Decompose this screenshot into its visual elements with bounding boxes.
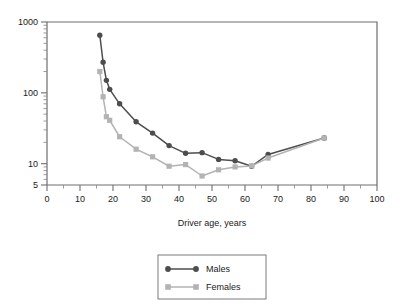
x-axis-tick-label: 20: [108, 194, 118, 204]
x-axis-tick-label: 30: [141, 194, 151, 204]
data-point: [133, 119, 138, 124]
data-point: [249, 163, 254, 168]
data-point: [150, 130, 155, 135]
series-females: [97, 69, 327, 179]
data-point: [216, 167, 221, 172]
x-axis-tick-label: 70: [273, 194, 283, 204]
line-chart: 51010010000102030405060708090100Driver a…: [0, 0, 400, 307]
y-axis-tick-label: 1000: [18, 17, 38, 27]
data-point: [107, 87, 112, 92]
data-point: [97, 33, 102, 38]
data-point: [232, 158, 237, 163]
legend-marker: [165, 266, 171, 272]
x-axis-tick-label: 50: [207, 194, 217, 204]
data-point: [200, 173, 205, 178]
data-point: [97, 69, 102, 74]
data-point: [117, 101, 122, 106]
y-axis-tick-label: 10: [28, 159, 38, 169]
data-point: [107, 118, 112, 123]
data-point: [322, 135, 327, 140]
x-axis-tick-label: 40: [174, 194, 184, 204]
data-point: [216, 157, 221, 162]
data-point: [167, 164, 172, 169]
x-axis-tick-label: 100: [369, 194, 384, 204]
chart-container: 51010010000102030405060708090100Driver a…: [0, 0, 400, 307]
x-axis-title: Driver age, years: [178, 218, 247, 228]
data-point: [166, 143, 171, 148]
series-males: [97, 33, 327, 169]
x-axis-tick-label: 80: [306, 194, 316, 204]
x-axis-tick-label: 90: [339, 194, 349, 204]
data-point: [233, 164, 238, 169]
plot-frame: [47, 22, 377, 185]
legend-label: Females: [206, 282, 241, 292]
legend-label: Males: [206, 264, 231, 274]
data-point: [101, 94, 106, 99]
legend-marker: [193, 266, 199, 272]
data-point: [104, 78, 109, 83]
y-axis-tick-label: 5: [33, 180, 38, 190]
legend-marker: [193, 284, 199, 290]
series-line: [100, 72, 324, 176]
y-axis-tick-label: 100: [23, 88, 38, 98]
data-point: [117, 134, 122, 139]
data-point: [199, 150, 204, 155]
x-axis-tick-label: 10: [75, 194, 85, 204]
data-point: [266, 155, 271, 160]
data-point: [134, 147, 139, 152]
data-point: [150, 154, 155, 159]
data-point: [183, 151, 188, 156]
x-axis-tick-label: 0: [44, 194, 49, 204]
data-point: [100, 60, 105, 65]
data-point: [183, 162, 188, 167]
x-axis-tick-label: 60: [240, 194, 250, 204]
legend-marker: [165, 284, 171, 290]
